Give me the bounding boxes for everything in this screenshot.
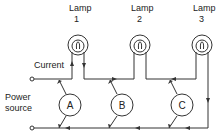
lamp-1-label: Lamp: [69, 3, 92, 13]
current-label: Current: [34, 60, 65, 70]
meter-a-label: A: [67, 100, 74, 111]
circuit-diagram: Lamp 1 Lamp 2 Lamp 3 Current Power sourc…: [0, 0, 220, 137]
top-terminal: [30, 77, 34, 81]
lamp-3-symbol: [192, 35, 212, 55]
meter-b-label: B: [119, 100, 126, 111]
lamp-2-label: Lamp: [131, 3, 154, 13]
meter-b: B: [108, 80, 133, 128]
power-label-line2: source: [5, 103, 32, 113]
lamp-3-number: 3: [199, 14, 204, 24]
bottom-terminal: [30, 126, 34, 130]
meter-c: C: [168, 80, 193, 128]
lamp-2-symbol: [130, 35, 150, 55]
meter-a: A: [57, 80, 81, 128]
meter-c-label: C: [178, 100, 185, 111]
lamp-1-symbol: [68, 35, 88, 55]
lamp-1-number: 1: [74, 14, 79, 24]
power-label-line1: Power: [5, 92, 31, 102]
lamp-2-number: 2: [137, 14, 142, 24]
lamp-3-label: Lamp: [193, 3, 216, 13]
